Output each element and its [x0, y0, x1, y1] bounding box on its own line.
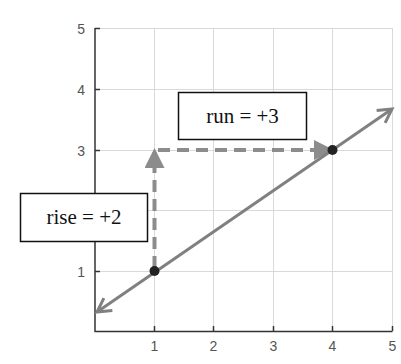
run-label-box: run = +3 [179, 93, 307, 140]
x-tick-label: 3 [270, 338, 278, 354]
x-tick-label: 1 [151, 338, 159, 354]
y-tick-label: 1 [77, 264, 85, 280]
x-tick-label: 4 [329, 338, 337, 354]
y-tick-label: 3 [77, 143, 85, 159]
x-tick-labels: 1 2 3 4 5 [151, 338, 397, 354]
x-tick-label: 5 [389, 338, 397, 354]
point-4-3 [328, 145, 338, 155]
point-1-1 [150, 266, 160, 276]
rise-label: rise = +2 [46, 205, 121, 229]
run-label: run = +3 [206, 104, 279, 128]
x-tick-label: 2 [210, 338, 218, 354]
y-tick-label: 4 [77, 82, 85, 98]
y-tick-label: 5 [77, 21, 85, 37]
rise-label-box: rise = +2 [21, 194, 148, 242]
grid [95, 28, 393, 331]
slope-chart: 5 4 3 2 1 1 2 3 4 5 run = +3 rise = +2 [0, 0, 401, 364]
axes [95, 28, 393, 332]
